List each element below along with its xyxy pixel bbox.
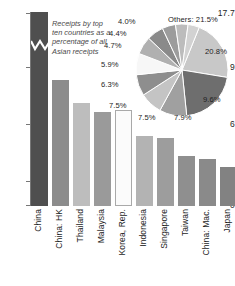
y-tick-mark-9 <box>26 67 30 68</box>
x-label-china-hk: China: HK <box>54 209 64 283</box>
pie-label-korea-rep: 7.5% <box>109 101 127 110</box>
axis-break-marker <box>31 38 50 53</box>
bar-malaysia <box>94 112 111 206</box>
x-label-singapore: Singapore <box>159 209 169 283</box>
y-tick-mark-0 <box>26 205 30 206</box>
pie-slice-china <box>182 70 227 116</box>
x-label-korea-rep: Korea, Rep. <box>117 209 127 283</box>
chart-figure: 17.7 9 6 3 0 Receipts by top ten countri… <box>0 0 235 286</box>
pie-label-indonesia: 6.3% <box>101 80 119 89</box>
x-label-china: China <box>33 209 43 283</box>
x-label-indonesia: Indonesia <box>138 209 148 283</box>
bar-indonesia <box>136 136 153 206</box>
y-tick-mark-3 <box>26 181 30 182</box>
pie-label-malaysia: 7.5% <box>138 113 156 122</box>
bar-china-mac <box>199 159 216 206</box>
pie-label-china: 20.8% <box>205 47 227 56</box>
x-label-thailand: Thailand <box>75 209 85 283</box>
pie-label-taiwan: 4.7% <box>104 41 122 50</box>
y-tick-mark-6 <box>26 124 30 125</box>
bar-china-hk <box>52 80 69 206</box>
pie-label-china-mac: 4.4% <box>109 29 127 38</box>
bar-singapore <box>157 138 174 206</box>
pie-label-china-hk: 9.6% <box>203 95 221 104</box>
bar-japan <box>220 167 235 206</box>
chart-annotation: Receipts by top ten countries as a perce… <box>52 19 114 56</box>
x-label-malaysia: Malaysia <box>96 209 106 283</box>
x-label-japan: Japan <box>222 209 232 283</box>
pie-label-others: Others: 21.5% <box>168 15 218 24</box>
bar-taiwan <box>178 156 195 206</box>
x-label-china-mac: China: Mac. <box>201 209 211 283</box>
x-label-taiwan: Taiwan <box>180 209 190 283</box>
pie-label-singapore: 5.9% <box>101 60 119 69</box>
y-tick-mark-17-7 <box>26 13 30 14</box>
bar-thailand <box>73 103 90 206</box>
pie-label-japan: 4.0% <box>118 17 136 26</box>
pie-label-thailand: 7.9% <box>174 113 192 122</box>
